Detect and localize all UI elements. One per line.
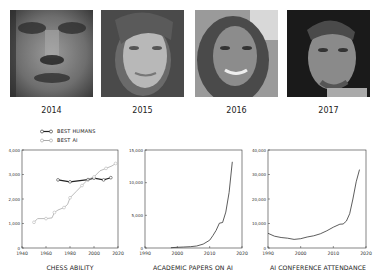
chart-1: 199020002010202005,00010,00015,000 <box>129 148 248 257</box>
series-line <box>268 170 360 240</box>
face-image-2016 <box>195 10 278 97</box>
face-year-label: 2017 <box>287 106 370 115</box>
face-year-label: 2014 <box>10 106 93 115</box>
svg-text:10,000: 10,000 <box>252 221 266 226</box>
legend-label: BEST HUMANS <box>57 128 96 134</box>
svg-text:1990: 1990 <box>262 251 274 256</box>
face-image-2015 <box>101 10 184 97</box>
svg-text:15,000: 15,000 <box>129 148 143 153</box>
series-line <box>34 164 116 223</box>
ai-line-marker-icon <box>40 138 53 143</box>
svg-text:1980: 1980 <box>64 251 76 256</box>
series-line <box>58 178 111 182</box>
svg-text:0: 0 <box>17 246 20 251</box>
chart-2: 1990200020102020010,00020,00030,00040,00… <box>252 148 372 257</box>
svg-text:0: 0 <box>263 246 266 251</box>
svg-text:30,000: 30,000 <box>252 172 266 177</box>
svg-text:2010: 2010 <box>327 251 339 256</box>
svg-text:10,000: 10,000 <box>129 180 143 185</box>
svg-text:1940: 1940 <box>16 251 28 256</box>
humans-line-marker-icon <box>40 129 53 134</box>
svg-text:4,000: 4,000 <box>9 148 21 153</box>
legend-best-humans: BEST HUMANS <box>40 128 96 134</box>
svg-text:2000: 2000 <box>88 251 100 256</box>
svg-text:2000: 2000 <box>171 251 183 256</box>
svg-text:5,000: 5,000 <box>132 213 144 218</box>
series-line <box>171 162 232 248</box>
legend-best-ai: BEST AI <box>40 137 78 143</box>
svg-text:20,000: 20,000 <box>252 197 266 202</box>
svg-text:1960: 1960 <box>40 251 52 256</box>
svg-text:2020: 2020 <box>236 251 248 256</box>
svg-text:2010: 2010 <box>204 251 216 256</box>
svg-text:3,000: 3,000 <box>9 172 21 177</box>
face-year-label: 2015 <box>101 106 184 115</box>
svg-text:40,000: 40,000 <box>252 148 266 153</box>
face-image-2014 <box>10 10 93 97</box>
svg-text:2000: 2000 <box>295 251 307 256</box>
chart-title-attendance: AI CONFERENCE ATTENDANCE <box>255 264 380 271</box>
svg-text:2,000: 2,000 <box>9 197 21 202</box>
face-year-label: 2016 <box>195 106 278 115</box>
svg-text:1,000: 1,000 <box>9 221 21 226</box>
chart-0: 1940196019802000202001,0002,0003,0004,00… <box>9 148 124 257</box>
svg-text:2020: 2020 <box>360 251 372 256</box>
svg-text:1990: 1990 <box>139 251 151 256</box>
svg-text:0: 0 <box>140 246 143 251</box>
face-image-2017 <box>287 10 370 97</box>
svg-text:2020: 2020 <box>112 251 124 256</box>
legend-label: BEST AI <box>57 137 78 143</box>
chart-title-chess: CHESS ABILITY <box>7 264 133 271</box>
chart-title-papers: ACADEMIC PAPERS ON AI <box>130 264 256 271</box>
